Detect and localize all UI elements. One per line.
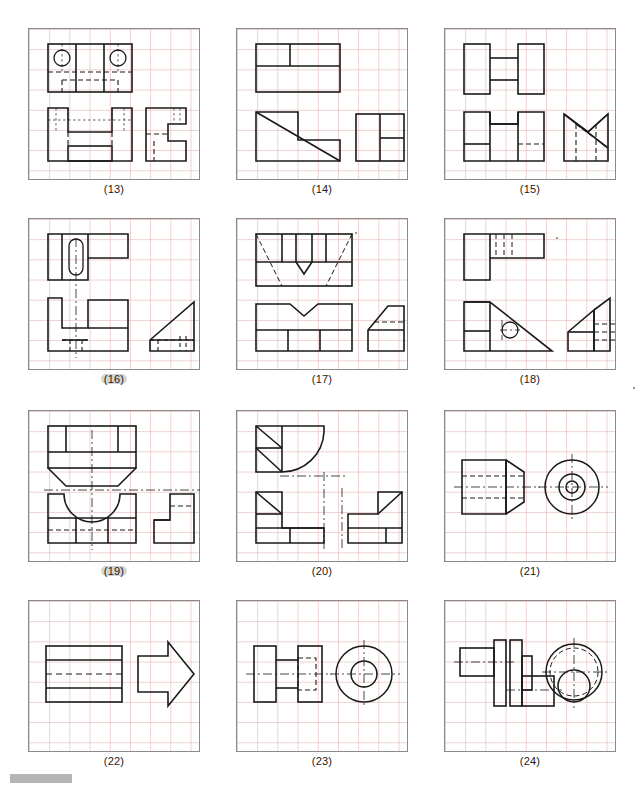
panel-caption-20: (20) xyxy=(236,565,408,577)
stray-mark xyxy=(633,387,635,389)
panel-caption-14: (14) xyxy=(236,183,408,195)
drawing-panel-20[interactable] xyxy=(236,410,408,562)
panel-drawing-13 xyxy=(28,28,200,180)
stray-mark xyxy=(556,237,558,239)
panel-drawing-21 xyxy=(444,410,616,562)
panel-caption-23: (23) xyxy=(236,755,408,767)
drawing-panel-19[interactable] xyxy=(28,410,200,562)
panel-drawing-16 xyxy=(28,218,200,370)
panel-caption-18: (18) xyxy=(444,373,616,385)
panel-caption-24: (24) xyxy=(444,755,616,767)
page-marker-bar xyxy=(10,774,72,783)
panel-drawing-24 xyxy=(444,600,616,752)
panel-drawing-20 xyxy=(236,410,408,562)
panel-caption-16: (16) xyxy=(28,373,200,385)
panel-caption-13: (13) xyxy=(28,183,200,195)
panel-drawing-15 xyxy=(444,28,616,180)
drawing-panel-23[interactable] xyxy=(236,600,408,752)
panel-caption-15: (15) xyxy=(444,183,616,195)
drawing-panel-14[interactable] xyxy=(236,28,408,180)
drawing-panel-15[interactable] xyxy=(444,28,616,180)
panel-drawing-17 xyxy=(236,218,408,370)
stray-mark xyxy=(355,232,357,234)
panel-caption-22: (22) xyxy=(28,755,200,767)
panel-drawing-19 xyxy=(28,410,200,562)
worksheet-sheet: (13) (14) xyxy=(0,0,643,794)
drawing-panel-18[interactable] xyxy=(444,218,616,370)
drawing-panel-24[interactable] xyxy=(444,600,616,752)
drawing-panel-13[interactable] xyxy=(28,28,200,180)
panel-caption-19: (19) xyxy=(28,565,200,577)
panel-drawing-23 xyxy=(236,600,408,752)
drawing-panel-22[interactable] xyxy=(28,600,200,752)
panel-drawing-18 xyxy=(444,218,616,370)
drawing-panel-16[interactable] xyxy=(28,218,200,370)
panel-caption-17: (17) xyxy=(236,373,408,385)
drawing-panel-17[interactable] xyxy=(236,218,408,370)
panel-caption-21: (21) xyxy=(444,565,616,577)
panel-drawing-14 xyxy=(236,28,408,180)
drawing-panel-21[interactable] xyxy=(444,410,616,562)
panel-drawing-22 xyxy=(28,600,200,752)
